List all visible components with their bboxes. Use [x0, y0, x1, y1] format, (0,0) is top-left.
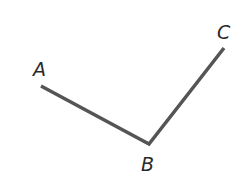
point-label-c: C	[217, 21, 231, 43]
angle-abc-diagram: A B C	[0, 0, 246, 178]
point-label-a: A	[31, 58, 46, 80]
point-label-b: B	[141, 153, 154, 175]
angle-segments	[41, 48, 224, 144]
